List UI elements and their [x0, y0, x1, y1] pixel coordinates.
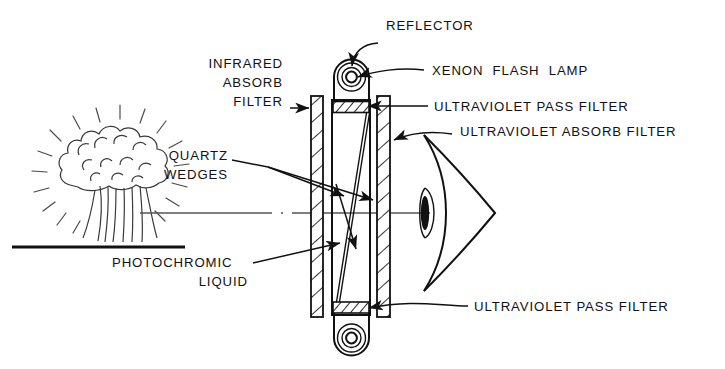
label-uv-pass-filter-top: ULTRAVIOLET PASS FILTER	[434, 99, 629, 114]
label-xenon-flash-lamp: XENON FLASH LAMP	[432, 63, 588, 78]
leader-reflector	[352, 43, 378, 66]
label-reflector: REFLECTOR	[386, 18, 474, 33]
label-quartz-wedges-line1: QUARTZ	[169, 148, 228, 163]
leader-uv-absorb-filter	[394, 132, 452, 140]
leader-quartz-wedges-stem	[232, 160, 268, 167]
photochromic-liquid-cell	[332, 100, 370, 315]
leader-photochromic-liquid	[253, 243, 340, 263]
label-quartz-wedges-line2: WEDGES	[164, 167, 228, 182]
mushroom-cloud-icon	[59, 126, 168, 242]
label-photochromic-liquid-line2: LIQUID	[199, 274, 248, 289]
reflector-housing-top	[334, 60, 369, 105]
label-uv-pass-filter-bottom: ULTRAVIOLET PASS FILTER	[474, 299, 669, 314]
label-photochromic-liquid-line1: PHOTOCHROMIC	[112, 255, 232, 270]
quartz-wedge-upper-edge	[337, 113, 367, 302]
infrared-absorb-filter-plate	[311, 96, 323, 317]
label-uv-absorb-filter: ULTRAVIOLET ABSORB FILTER	[460, 124, 676, 139]
label-infrared-absorb-filter-line1: INFRARED	[208, 56, 283, 71]
figure-canvas: REFLECTOR XENON FLASH LAMP ULTRAVIOLET P…	[0, 0, 725, 369]
pupil	[421, 196, 429, 230]
uv-pass-filter-band-bottom	[333, 302, 369, 313]
eye-cross-section	[420, 135, 495, 291]
explosion-graphic	[12, 105, 189, 247]
label-layer: REFLECTOR XENON FLASH LAMP ULTRAVIOLET P…	[112, 18, 676, 314]
reflector-housing-bottom	[334, 310, 369, 356]
uv-pass-filter-band-top	[333, 102, 369, 113]
ultraviolet-absorb-filter-plate	[377, 96, 390, 317]
quartz-wedge-pair	[337, 113, 370, 302]
label-infrared-absorb-filter-line3: FILTER	[233, 94, 283, 109]
technical-diagram: REFLECTOR XENON FLASH LAMP ULTRAVIOLET P…	[0, 0, 725, 369]
xenon-flash-lamp-tube	[346, 72, 357, 83]
label-infrared-absorb-filter-line2: ABSORB	[223, 75, 283, 90]
